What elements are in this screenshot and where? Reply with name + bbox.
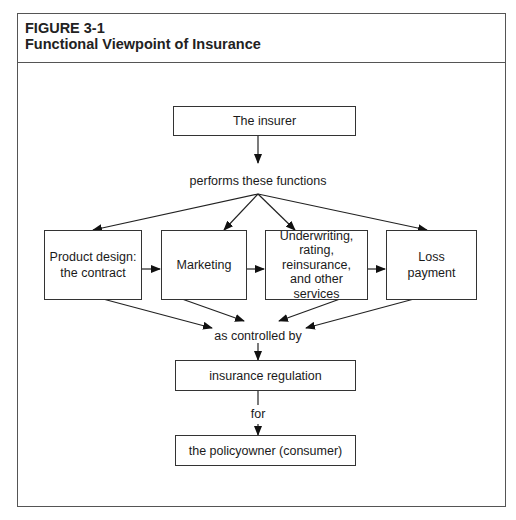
controlled-by-label: as controlled by xyxy=(198,329,318,343)
arrow-marketing-to-control xyxy=(182,299,244,321)
regulation-box: insurance regulation xyxy=(175,360,356,391)
arrow-to-product-design xyxy=(93,194,258,230)
arrow-to-loss-payment xyxy=(258,194,427,230)
marketing-box: Marketing xyxy=(161,230,247,300)
policyowner-label: the policyowner (consumer) xyxy=(189,443,343,459)
arrow-to-underwriting xyxy=(258,194,295,230)
arrow-underwriting-to-control xyxy=(279,299,340,321)
product-design-label: Product design: the contract xyxy=(50,249,137,281)
product-design-box: Product design: the contract xyxy=(44,230,142,300)
policyowner-box: the policyowner (consumer) xyxy=(175,435,356,466)
arrow-loss-to-control xyxy=(306,299,414,328)
underwriting-label: Underwriting, rating, reinsurance, and o… xyxy=(266,229,367,302)
insurer-box: The insurer xyxy=(173,106,356,136)
for-label: for xyxy=(238,407,278,421)
loss-payment-box: Loss payment xyxy=(386,230,477,300)
loss-payment-label: Loss payment xyxy=(408,249,456,281)
performs-functions-label: performs these functions xyxy=(158,174,358,188)
marketing-label: Marketing xyxy=(177,257,232,273)
regulation-label: insurance regulation xyxy=(209,368,322,384)
underwriting-box: Underwriting, rating, reinsurance, and o… xyxy=(265,230,368,300)
insurer-label: The insurer xyxy=(233,113,296,129)
arrow-to-marketing xyxy=(224,194,258,230)
